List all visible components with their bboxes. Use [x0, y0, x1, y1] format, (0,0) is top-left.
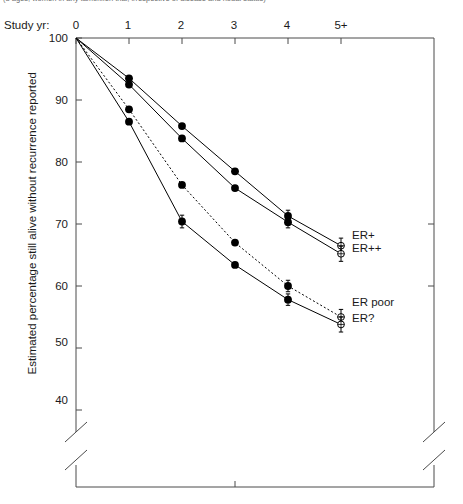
series-line	[76, 38, 341, 317]
series-er-	[76, 38, 344, 253]
data-point-marker	[284, 296, 292, 304]
data-point-marker	[178, 218, 186, 226]
data-point-marker	[284, 218, 292, 226]
series-line	[76, 38, 341, 324]
data-point-marker	[231, 184, 239, 192]
data-point-marker	[125, 105, 133, 113]
data-point-marker	[178, 135, 186, 143]
data-point-marker	[284, 282, 292, 290]
series-er-	[76, 38, 344, 332]
data-point-marker	[231, 239, 239, 247]
axis-lines	[65, 38, 445, 487]
series-er-poor	[76, 38, 344, 325]
data-series-layer	[76, 38, 344, 332]
data-point-marker	[178, 122, 186, 130]
data-point-marker	[125, 118, 133, 126]
data-point-marker	[125, 81, 133, 89]
data-point-marker	[231, 167, 239, 175]
series-line	[76, 38, 341, 246]
data-point-marker	[231, 261, 239, 269]
data-point-marker	[178, 181, 186, 189]
plot-canvas	[0, 0, 463, 504]
series-line	[76, 38, 341, 254]
survival-chart-figure: (3 ages, women in any tamoxifen trial, i…	[0, 0, 463, 504]
